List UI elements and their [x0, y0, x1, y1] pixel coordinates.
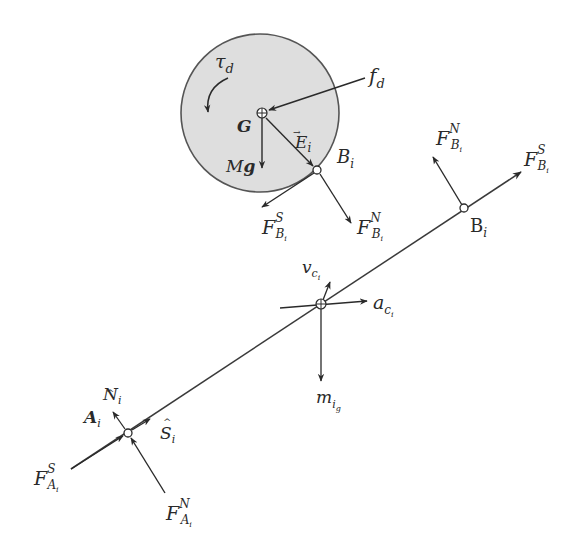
wheel-normal-label: FNBi — [356, 211, 384, 243]
drag-force-label: fd — [367, 64, 385, 91]
end-b-point-icon — [460, 204, 468, 212]
free-body-diagram: τd fd G Mg → Ei Bi FSBi FNBi FNBi FSBi B… — [0, 0, 585, 543]
link-line — [71, 172, 521, 469]
link-center-of-mass-icon — [316, 299, 326, 309]
velocity-label: vci — [302, 257, 321, 282]
unit-tangent-label: Si — [160, 423, 175, 446]
acceleration-label: aci — [373, 291, 394, 319]
wheel-weight-label: Mg — [225, 156, 255, 176]
wheel-normal-arrow-icon — [320, 174, 351, 223]
unit-tangent-arrow-icon — [132, 419, 150, 430]
unit-normal-arrow-icon — [113, 412, 125, 429]
end-a-shear-arrow-icon — [71, 436, 123, 469]
wheel-center-label: G — [237, 116, 252, 136]
link — [71, 157, 521, 493]
wheel-shear-label: FSBi — [261, 211, 287, 243]
velocity-arrow-icon — [323, 282, 330, 300]
diagram-svg: τd fd G Mg → Ei Bi FSBi FNBi FNBi FSBi B… — [0, 0, 585, 543]
end-a-normal-label: FNAi — [165, 497, 192, 529]
end-a-shear-label: FSAi — [33, 462, 59, 494]
end-b-normal-label: FNBi — [435, 122, 463, 154]
wheel — [181, 34, 365, 223]
end-a-normal-arrow-icon — [131, 438, 165, 493]
wheel-contact-point-icon — [313, 166, 321, 174]
unit-normal-label: Ni — [102, 384, 121, 407]
end-b-point-label: Bi — [470, 215, 487, 240]
end-a-point-icon — [124, 429, 132, 437]
wheel-contact-label: Bi — [336, 146, 354, 171]
end-b-shear-label: FSBi — [523, 143, 549, 175]
center-of-mass-icon — [257, 108, 267, 118]
end-a-point-label: Ai — [82, 407, 101, 430]
link-weight-label: mig — [316, 387, 341, 413]
end-b-normal-arrow-icon — [433, 157, 462, 205]
